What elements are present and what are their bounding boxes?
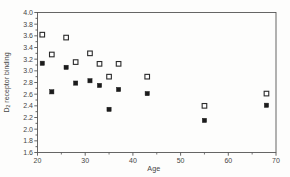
- y-axis-tick-label: 4.0: [23, 9, 33, 16]
- plot-frame: [38, 13, 277, 153]
- y-axis-tick-label: 3.8: [23, 21, 33, 28]
- y-axis-tick-label: 1.8: [23, 137, 33, 144]
- data-point-open-square: [88, 51, 93, 56]
- data-point-open-square: [97, 62, 102, 67]
- data-point-filled-square: [145, 91, 149, 95]
- x-axis-tick-label: 40: [129, 157, 137, 164]
- y-axis-tick-label: 2.8: [23, 79, 33, 86]
- data-point-open-square: [107, 74, 112, 79]
- data-point-filled-square: [202, 118, 206, 122]
- data-point-filled-square: [264, 103, 268, 107]
- data-point-filled-square: [88, 79, 92, 83]
- data-point-open-square: [116, 62, 121, 67]
- x-axis-tick-label: 30: [81, 157, 89, 164]
- data-point-open-square: [64, 35, 69, 40]
- y-axis-tick-label: 3.0: [23, 67, 33, 74]
- data-point-open-square: [40, 32, 45, 37]
- data-point-filled-square: [107, 107, 111, 111]
- y-axis-tick-label: 2.6: [23, 91, 33, 98]
- y-axis-title: D2 receptor binding: [3, 52, 12, 112]
- x-axis-title: Age: [147, 164, 160, 173]
- y-axis-tick-label: 3.6: [23, 32, 33, 39]
- y-axis-tick-label: 3.2: [23, 56, 33, 63]
- data-point-filled-square: [97, 83, 101, 87]
- x-axis-tick-label: 60: [224, 157, 232, 164]
- scatter-plot-figure: 2030405060701.61.82.02.22.42.62.83.03.23…: [0, 0, 290, 177]
- x-axis-tick-label: 70: [272, 157, 280, 164]
- x-axis-tick-label: 20: [34, 157, 42, 164]
- y-axis-tick-label: 2.0: [23, 126, 33, 133]
- y-axis-tick-label: 2.2: [23, 114, 33, 121]
- data-point-open-square: [73, 60, 78, 65]
- scatter-chart: 2030405060701.61.82.02.22.42.62.83.03.23…: [0, 0, 290, 177]
- data-point-filled-square: [64, 65, 68, 69]
- data-point-filled-square: [50, 90, 54, 94]
- data-point-filled-square: [40, 61, 44, 65]
- x-axis-tick-label: 50: [177, 157, 185, 164]
- data-point-open-square: [202, 104, 207, 109]
- data-point-open-square: [264, 91, 269, 96]
- data-point-open-square: [145, 74, 150, 79]
- y-axis-tick-label: 3.4: [23, 44, 33, 51]
- data-point-filled-square: [116, 87, 120, 91]
- y-axis-tick-label: 1.6: [23, 149, 33, 156]
- y-axis-tick-label: 2.4: [23, 102, 33, 109]
- data-point-filled-square: [74, 81, 78, 85]
- data-point-open-square: [50, 52, 55, 57]
